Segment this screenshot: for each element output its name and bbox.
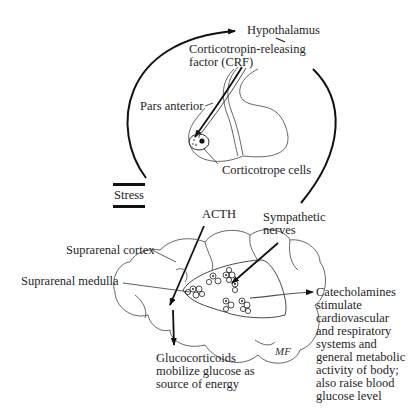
label-hypothalamus: Hypothalamus [247,24,320,37]
label-crf-line2: factor (CRF) [189,56,253,69]
label-sympathetic-line2: nerves [263,224,296,237]
label-pars-anterior: Pars anterior [140,100,204,113]
label-corticotrope-cells: Corticotrope cells [222,164,311,177]
artist-signature: MF [274,345,291,357]
stress-label-box: Stress [113,183,145,209]
label-stress: Stress [113,189,145,202]
label-acth: ACTH [202,208,236,221]
glucocorticoids-line: source of energy [156,378,255,391]
label-suprarenal-cortex: Suprarenal cortex [66,244,155,257]
hypothalamus-to-sympathetic-arc [301,69,336,203]
glucocorticoids-arrow [173,310,174,345]
pars-anterior-pointer [205,103,213,106]
catecholamines-line: glucose level [316,390,405,403]
label-catecholamines: Catecholamines stimulate cardiovascular … [316,286,405,403]
medulla-region [183,260,286,318]
label-suprarenal-medulla: Suprarenal medulla [21,275,119,288]
corticotrope-cell [189,134,209,150]
pituitary-gland-outline [189,67,288,161]
suprarenal-medulla-pointer [123,283,190,292]
catecholamines-arrow [250,292,313,298]
acth-arrow [170,226,204,305]
label-glucocorticoids: Glucocorticoids mobilize glucose as sour… [156,352,255,391]
suprarenal-cortex-pointer [152,250,176,262]
corticotrope-pointer [204,149,218,164]
